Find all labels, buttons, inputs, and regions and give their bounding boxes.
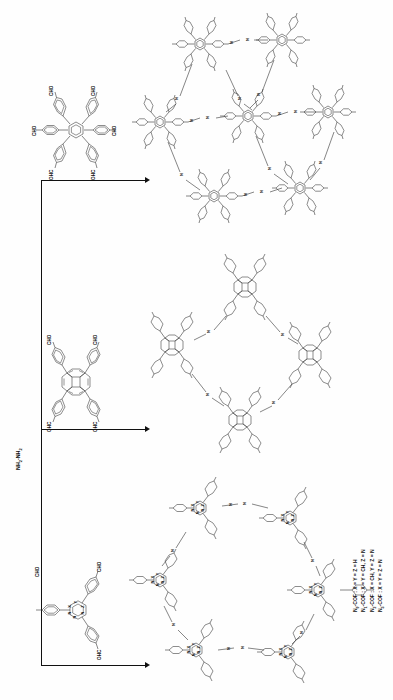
svg-text:N: N [226,647,231,650]
legend-assign-1: X = Y = CH, Z = N [360,549,366,589]
svg-text:N: N [240,646,245,649]
svg-text:N: N [170,549,175,552]
legend-name-1: N1-COF : [360,590,366,612]
svg-text:N: N [242,502,247,505]
product-cof-bottom: X Y Z N N N N N N N N N [0,0,393,700]
legend-assign-2: X = CH, Y = Z = N [369,549,375,589]
legend-line-1: N1-COF : X = Y = CH, Z = N [360,549,368,612]
legend-name-3: N3-COF : [377,590,383,612]
legend-assign-0: X = Y = Z = H [352,559,358,589]
svg-text:N: N [310,559,315,562]
legend-line-0: N0-COF : X = Y = Z = H [352,549,360,612]
legend-assign-3: X = Y = Z = N [377,559,383,589]
legend-block: N0-COF : X = Y = Z = H N1-COF : X = Y = … [352,549,386,612]
figure-canvas: NH2-NH2 [0,0,393,700]
legend-line-3: N3-COF : X = Y = Z = N [377,549,385,612]
svg-text:N: N [171,623,176,626]
legend-line-2: N2-COF : X = CH, Y = Z = N [369,549,377,612]
legend-name-0: N0-COF : [352,590,358,612]
legend-name-2: N2-COF : [369,590,375,612]
svg-text:N: N [228,503,233,506]
svg-text:N: N [299,631,304,634]
